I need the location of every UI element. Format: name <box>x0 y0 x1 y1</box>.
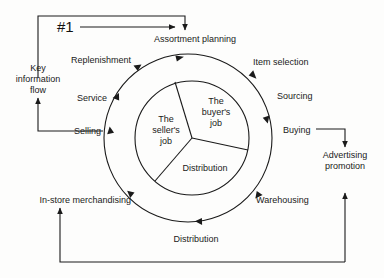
buyers-job-line-3: job <box>191 118 241 129</box>
label-item-selection: Item selection <box>253 57 309 68</box>
label-selling: Selling <box>74 126 101 137</box>
label-service: Service <box>77 93 107 104</box>
advertising-line-1: Advertising <box>310 150 380 161</box>
label-in-store-merchandising: In-store merchandising <box>39 195 131 206</box>
diagram-canvas: #1 Assortment planning Item selection So… <box>0 0 384 278</box>
label-buying: Buying <box>283 125 311 136</box>
label-distribution-outer: Distribution <box>173 234 218 245</box>
key-flow-line-3: flow <box>1 85 75 96</box>
sellers-job-line-1: The <box>141 114 191 125</box>
sellers-job-line-3: job <box>141 136 191 147</box>
label-distribution-inner: Distribution <box>173 163 237 174</box>
buyers-job-line-2: buyer's <box>191 107 241 118</box>
buying-to-advertising-arrow <box>316 129 345 147</box>
key-flow-line-1: Key <box>1 63 75 74</box>
distribution-inner-line-1: Distribution <box>173 163 237 174</box>
label-assortment-planning: Assortment planning <box>154 34 236 45</box>
marker-one-label: #1 <box>57 18 74 35</box>
label-sourcing: Sourcing <box>277 91 313 102</box>
label-key-information-flow: Key information flow <box>1 63 75 96</box>
buyers-job-line-1: The <box>191 96 241 107</box>
label-sellers-job: The seller's job <box>141 114 191 147</box>
divider-buyer-distribution <box>192 138 248 150</box>
key-flow-line-2: information <box>1 74 75 85</box>
label-buyers-job: The buyer's job <box>191 96 241 129</box>
sellers-job-line-2: seller's <box>141 125 191 136</box>
label-advertising-promotion: Advertising promotion <box>310 150 380 172</box>
label-warehousing: Warehousing <box>256 195 309 206</box>
advertising-line-2: promotion <box>310 161 380 172</box>
label-replenishment: Replenishment <box>71 55 131 66</box>
